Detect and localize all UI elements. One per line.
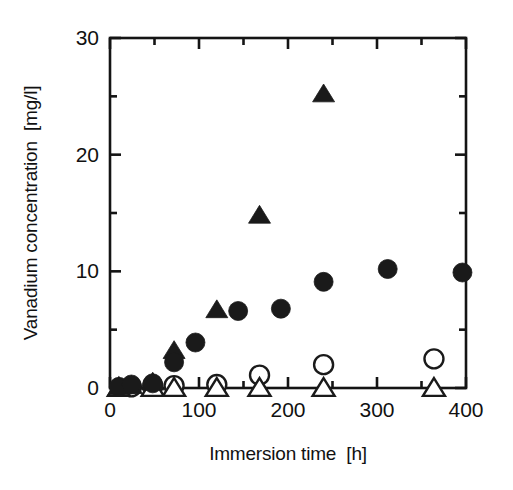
data-point-filled-triangle xyxy=(313,84,335,102)
axis-frame xyxy=(110,38,466,388)
x-axis-title: Immersion time [h] xyxy=(110,443,466,465)
data-point-filled-circle xyxy=(271,299,290,318)
data-point-filled-circle xyxy=(165,353,184,372)
data-point-filled-triangle xyxy=(206,300,228,318)
data-point-filled-circle xyxy=(143,374,162,393)
x-tick-label: 0 xyxy=(104,398,116,422)
chart-figure: Vanadium concentration [mg/l] 0102030 01… xyxy=(0,0,513,490)
x-tick-label: 100 xyxy=(181,398,216,422)
y-tick-label: 20 xyxy=(76,143,99,167)
y-axis-title: Vanadium concentration [mg/l] xyxy=(14,38,48,388)
plot-area: 0102030 0100200300400 xyxy=(110,38,466,388)
data-markers xyxy=(108,84,472,396)
data-point-open-circle xyxy=(314,355,333,374)
plot-canvas xyxy=(110,38,466,388)
data-point-filled-circle xyxy=(378,260,397,279)
data-point-filled-circle xyxy=(314,272,333,291)
y-tick-label: 30 xyxy=(76,26,99,50)
x-tick-label: 400 xyxy=(448,398,483,422)
y-tick-label: 0 xyxy=(87,376,99,400)
data-point-filled-circle xyxy=(453,263,472,282)
data-point-open-circle xyxy=(424,349,443,368)
x-tick-label: 200 xyxy=(270,398,305,422)
data-point-filled-triangle xyxy=(249,205,271,223)
axis-ticks xyxy=(110,38,466,388)
data-point-filled-circle xyxy=(122,375,141,394)
data-point-filled-circle xyxy=(186,333,205,352)
x-tick-label: 300 xyxy=(359,398,394,422)
y-tick-label: 10 xyxy=(76,259,99,283)
data-point-filled-circle xyxy=(229,302,248,321)
